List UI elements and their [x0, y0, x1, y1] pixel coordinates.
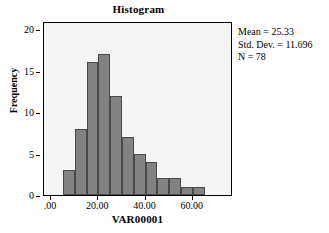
y-axis-title: Frequency: [8, 51, 19, 131]
chart-title: Histogram: [44, 3, 233, 16]
histogram-bar: [110, 96, 122, 195]
histogram-bar: [122, 137, 134, 195]
histogram-bar: [63, 170, 75, 195]
statistics-annotation: Mean = 25.33 Std. Dev. = 11.696 N = 78: [238, 26, 328, 64]
histogram-bar: [75, 129, 87, 195]
stat-n: N = 78: [238, 51, 328, 64]
y-tick-mark: [36, 196, 40, 197]
x-tick-label: 60.00: [181, 201, 204, 211]
x-tick-mark: [145, 196, 146, 200]
y-tick-label: 20: [24, 25, 34, 35]
x-tick-label: 40.00: [133, 201, 156, 211]
y-tick-label: 15: [24, 67, 34, 77]
y-tick-mark: [36, 113, 40, 114]
x-tick-label: .00: [44, 201, 57, 211]
histogram-bar: [181, 187, 193, 195]
histogram-bar: [157, 178, 169, 195]
y-tick-label: 5: [29, 150, 34, 160]
y-tick-mark: [36, 155, 40, 156]
plot-area: [43, 22, 232, 196]
x-tick-label: 20.00: [86, 201, 109, 211]
y-axis: 05101520: [0, 22, 40, 196]
y-tick-mark: [36, 72, 40, 73]
stat-mean: Mean = 25.33: [238, 26, 328, 39]
histogram-bar: [98, 54, 110, 195]
stat-stddev: Std. Dev. = 11.696: [238, 39, 328, 52]
x-tick-mark: [97, 196, 98, 200]
y-tick-mark: [36, 30, 40, 31]
y-tick-label: 0: [29, 191, 34, 201]
histogram-bar: [146, 162, 158, 195]
x-tick-mark: [50, 196, 51, 200]
x-axis: .0020.0040.0060.00: [43, 196, 232, 212]
histogram-bar: [87, 62, 99, 195]
histogram-bar: [169, 178, 181, 195]
x-tick-mark: [192, 196, 193, 200]
x-axis-title: VAR00001: [43, 213, 232, 225]
histogram-bar: [134, 154, 146, 195]
y-tick-label: 10: [24, 108, 34, 118]
histogram-chart: Histogram 05101520 Frequency .0020.0040.…: [0, 0, 329, 233]
bars-layer: [44, 23, 231, 195]
histogram-bar: [193, 187, 205, 195]
